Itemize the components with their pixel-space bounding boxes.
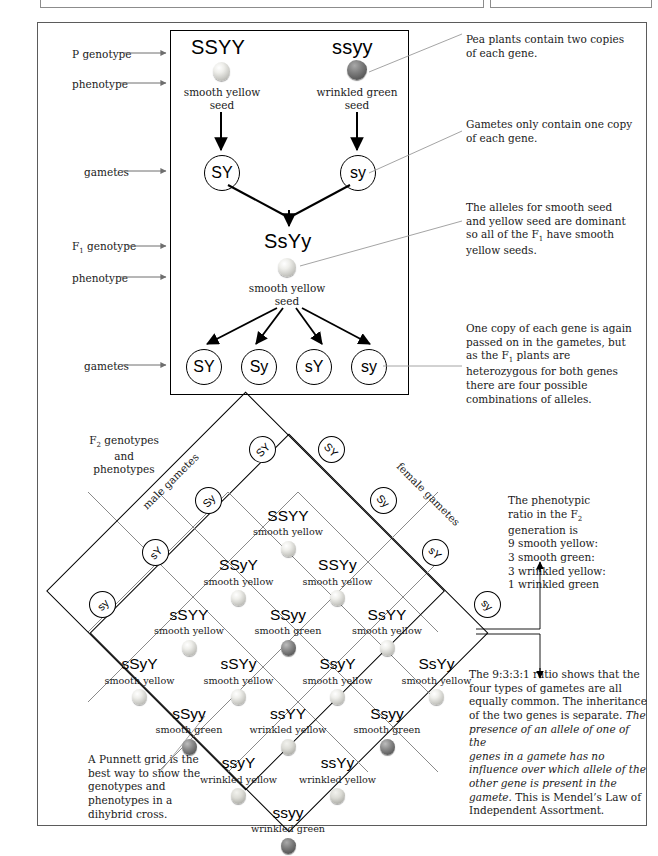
- cell-seed: [380, 640, 395, 656]
- law-line-0: The 9:3:3:1 ratio shows that the: [469, 668, 649, 682]
- cell-genotype: sSYy: [193, 656, 285, 672]
- law-line-6: influence over which allele of the: [469, 763, 649, 777]
- note-four-combinations: One copy of each gene is again passed on…: [466, 322, 634, 406]
- ratio-line-4: 3 smooth green:: [508, 551, 648, 565]
- label-p-genotype: P genotype: [72, 48, 132, 61]
- cell-phenotype: wrinkled green: [242, 824, 334, 834]
- law-line-4: presence of an allele of one of the: [469, 723, 649, 750]
- p-parent-1-seed: [213, 62, 230, 81]
- cell-seed: [231, 590, 246, 606]
- cell-seed-wrap: [341, 739, 433, 755]
- cell-phenotype: smooth green: [341, 725, 433, 735]
- cell-phenotype: smooth yellow: [193, 676, 285, 686]
- cell-phenotype: wrinkled yellow: [292, 775, 384, 785]
- cell-seed-wrap: [242, 640, 334, 656]
- cell-genotype: SSyY: [193, 557, 285, 573]
- cell-seed: [330, 590, 345, 606]
- law-line-3: of the two genes is separate. The: [469, 709, 649, 723]
- law-line-3-a: of the two genes is separate.: [469, 709, 626, 721]
- p-parent-2-phenotype-line2: seed: [345, 99, 370, 111]
- cell-phenotype: smooth yellow: [341, 626, 433, 636]
- label-p-gametes: gametes: [84, 166, 129, 179]
- cell-phenotype: smooth yellow: [193, 577, 285, 587]
- cell-phenotype: smooth green: [242, 626, 334, 636]
- cell-phenotype: smooth green: [143, 725, 235, 735]
- cell-seed-wrap: [391, 689, 483, 705]
- p-parent-2-phenotype: wrinkled green seed: [311, 86, 403, 112]
- cell-seed: [281, 838, 296, 854]
- ratio-line-1: ratio in the F2: [508, 508, 648, 524]
- cell-genotype: ssYy: [292, 755, 384, 771]
- label-p-phenotype: phenotype: [72, 78, 128, 91]
- cell-seed-wrap: [242, 838, 334, 854]
- f1-gamete-4: sy: [351, 349, 387, 385]
- f1-phenotype-line1: smooth yellow: [249, 282, 325, 294]
- law-line-3-b: The: [626, 709, 646, 721]
- cell-seed: [281, 739, 296, 755]
- cell-seed: [330, 689, 345, 705]
- cell-genotype: SsYY: [341, 607, 433, 623]
- cell-genotype: SSYy: [292, 557, 384, 573]
- label-f1-gametes: gametes: [84, 360, 129, 373]
- law-line-8-b: This is Mendel’s Law of: [512, 791, 641, 803]
- cell-seed: [330, 788, 345, 804]
- cell-seed-wrap: [242, 541, 334, 557]
- ratio-line-0: The phenotypic: [508, 494, 648, 508]
- law-line-8: gamete. This is Mendel’s Law of: [469, 791, 649, 805]
- p-parent-1-phenotype-line1: smooth yellow: [184, 86, 260, 98]
- cell-phenotype: smooth yellow: [391, 676, 483, 686]
- p-gamete-1: SY: [204, 155, 240, 191]
- cell-genotype: sSyy: [143, 706, 235, 722]
- note-two-copies: Pea plants contain two copies of each ge…: [466, 33, 634, 60]
- ratio-line-6: 1 wrinkled green: [508, 578, 648, 592]
- cell-seed: [182, 640, 197, 656]
- cell-seed-wrap: [143, 640, 235, 656]
- law-line-5: genes in a gamete has no: [469, 750, 649, 764]
- cell-phenotype: smooth yellow: [292, 577, 384, 587]
- cell-phenotype: smooth yellow: [94, 676, 186, 686]
- cross-diagram-box: [170, 30, 409, 395]
- cell-seed-wrap: [341, 640, 433, 656]
- f1-gamete-3: sY: [296, 349, 332, 385]
- cell-seed-wrap: [143, 739, 235, 755]
- cell-seed-wrap: [94, 689, 186, 705]
- cell-seed: [429, 689, 444, 705]
- punnett-cell: ssyywrinkled green: [242, 805, 334, 856]
- p-parent-1-genotype: SSYY: [191, 36, 245, 59]
- cell-seed-wrap: [193, 689, 285, 705]
- cell-genotype: ssyY: [193, 755, 285, 771]
- p-parent-2-genotype: ssyy: [332, 36, 373, 59]
- cell-genotype: ssyy: [242, 805, 334, 821]
- ratio-line-2: generation is: [508, 524, 648, 538]
- cell-seed: [231, 689, 246, 705]
- cell-phenotype: wrinkled yellow: [193, 775, 285, 785]
- ratio-line-3: 9 smooth yellow:: [508, 537, 648, 551]
- law-line-1: four types of gametes are all: [469, 682, 649, 696]
- f1-phenotype-line2: seed: [275, 295, 300, 307]
- cell-seed-wrap: [193, 788, 285, 804]
- f1-seed: [278, 258, 296, 277]
- cell-seed: [281, 640, 296, 656]
- cell-phenotype: smooth yellow: [143, 626, 235, 636]
- cell-genotype: sSYY: [143, 607, 235, 623]
- note-independent-assortment: The 9:3:3:1 ratio shows that the four ty…: [469, 668, 649, 818]
- p-gamete-2: sy: [340, 155, 376, 191]
- note-gametes-one-copy: Gametes only contain one copy of each ge…: [466, 118, 634, 145]
- note-dominance: The alleles for smooth seed and yellow s…: [466, 201, 634, 258]
- f1-gamete-1: SY: [186, 349, 222, 385]
- law-line-2: equally common. The inheritance: [469, 695, 649, 709]
- f1-gamete-2: Sy: [241, 349, 277, 385]
- top-cutoff-box-right: [490, 0, 652, 8]
- p-parent-2-phenotype-line1: wrinkled green: [316, 86, 397, 98]
- cell-seed-wrap: [242, 739, 334, 755]
- f1-genotype: SsYy: [264, 230, 311, 253]
- note-phenotypic-ratio: The phenotypic ratio in the F2 generatio…: [508, 494, 648, 592]
- law-line-9: Independent Assortment.: [469, 804, 649, 818]
- cell-genotype: ssYY: [242, 706, 334, 722]
- cell-seed: [132, 689, 147, 705]
- label-f1-phenotype: phenotype: [72, 272, 128, 285]
- cell-seed: [380, 739, 395, 755]
- cell-seed-wrap: [292, 788, 384, 804]
- cell-seed-wrap: [292, 590, 384, 606]
- cell-genotype: Ssyy: [341, 706, 433, 722]
